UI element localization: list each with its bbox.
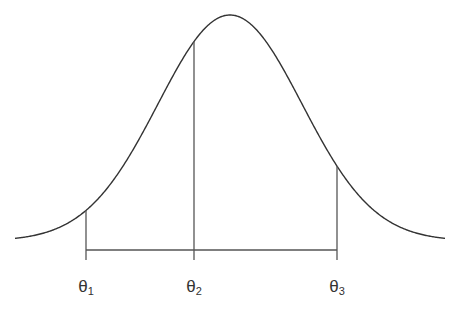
normal-curve-diagram: [0, 0, 455, 311]
theta2-label: θ2: [186, 277, 202, 297]
theta1-label: θ1: [78, 277, 94, 297]
bell-curve: [15, 15, 445, 238]
theta3-label: θ3: [329, 277, 345, 297]
theta-vertical-lines: [86, 42, 337, 260]
